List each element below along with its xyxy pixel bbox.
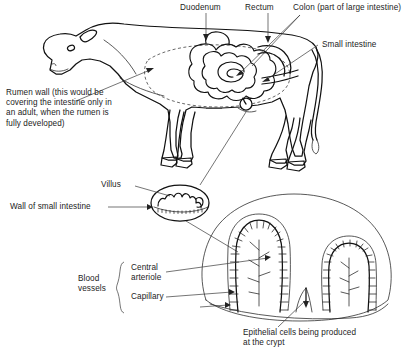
crypt-right (306, 288, 312, 312)
label-blood-vessels: Blood vessels (78, 274, 106, 294)
cow-nostril (52, 64, 56, 66)
arrowhead-rectum (265, 36, 271, 43)
villus-diagram (202, 194, 391, 321)
label-duodenum: Duodenum (180, 3, 221, 13)
villus-2-capillary-e (349, 287, 359, 290)
leader-central-arteriole (166, 258, 268, 272)
intestine-mid-loop (202, 52, 256, 93)
leader-body-to-crosssection (200, 112, 246, 185)
arrowhead-central-arteriole (265, 255, 271, 261)
label-wall-of-small-intestine: Wall of small intestine (10, 202, 91, 212)
figure-canvas: Duodenum Rectum Colon (part of large int… (0, 0, 412, 361)
diagram-artwork (0, 0, 412, 361)
label-villus: Villus (101, 180, 121, 190)
villus-2-capillary-c (341, 292, 349, 294)
villus-1-capillary-d (249, 292, 259, 294)
cow-muzzle-line (50, 69, 68, 71)
label-epithelial-cells: Epithelial cells being produced at the c… (243, 328, 356, 348)
cow-brisket-line (120, 78, 164, 96)
top-leader-lines (203, 13, 318, 82)
rectum-segment (258, 46, 291, 74)
cow-hind-leg-far (288, 118, 311, 165)
villus-2-capillary-b (340, 278, 349, 282)
cow-eye (67, 44, 76, 52)
leader-colon-2 (252, 15, 300, 66)
cow-tail-inner (311, 50, 318, 140)
intestine-cross-section (151, 185, 209, 221)
leader-epithelial-cells (278, 300, 306, 327)
villus-1-capillary-b (249, 260, 259, 266)
cow-shoulder-crease (104, 40, 136, 74)
villus-base-line (210, 304, 388, 319)
cow-front-leg-far (177, 112, 195, 161)
cow-hoof-front-far (176, 158, 192, 168)
label-rumen-wall: Rumen wall (this would be covering the i… (6, 88, 112, 129)
leader-capillary (166, 292, 232, 297)
label-rectum: Rectum (245, 3, 274, 13)
label-capillary: Capillary (131, 292, 164, 302)
duodenum-loop (206, 32, 230, 44)
villus-2-capillary-a (341, 262, 349, 268)
villus-2-capillary-d (349, 271, 358, 276)
arrowhead-capillary-2 (225, 302, 231, 308)
cow-hoof-hind-far (287, 161, 305, 171)
brace-blood-vessels (117, 262, 125, 313)
villus-1-capillary-f (259, 272, 270, 276)
arrowhead-rumen-wall (146, 68, 154, 73)
cow-tail-tuft (312, 140, 319, 154)
label-small-intestine: Small intestine (322, 40, 376, 50)
label-colon: Colon (part of large intestine) (293, 3, 401, 13)
cow-hoof-hind-near (269, 159, 287, 169)
rectum-segment-inner (258, 53, 285, 76)
small-intestine-tube (262, 70, 298, 78)
label-central-arteriole: Central arteriole (131, 263, 161, 283)
intestine-coil-group (189, 32, 298, 110)
villus-1-capillary-c (248, 278, 259, 282)
villus-1-capillary-a (250, 242, 259, 250)
arrowhead-duodenum (203, 34, 209, 41)
